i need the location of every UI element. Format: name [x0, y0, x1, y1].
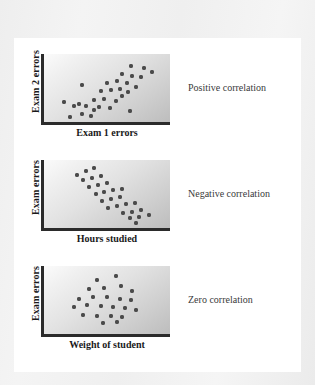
- plot-area-negative: [44, 160, 170, 228]
- y-axis-label: Exam errors: [30, 253, 41, 335]
- correlation-figure: Exam 2 errors Exam 1 errors Positive cor…: [0, 0, 315, 385]
- scatter-point: [119, 284, 123, 288]
- scatter-point: [105, 181, 109, 185]
- scatter-point: [109, 197, 113, 201]
- scatter-point: [72, 305, 76, 309]
- scatter-point: [84, 104, 88, 108]
- panel-caption-zero: Zero correlation: [188, 294, 253, 305]
- scatter-point: [134, 85, 138, 89]
- scatter-point: [106, 206, 110, 210]
- scatter-point: [139, 75, 143, 79]
- y-axis-line: [41, 160, 44, 231]
- scatter-point: [114, 99, 118, 103]
- scatter-point: [120, 187, 124, 191]
- scatter-point: [115, 79, 119, 83]
- scatter-point: [100, 199, 104, 203]
- scatter-point: [105, 81, 109, 85]
- scatter-point: [128, 216, 132, 220]
- scatter-point: [134, 221, 138, 225]
- scatter-point: [130, 289, 134, 293]
- scatter-point: [102, 190, 106, 194]
- scatter-point: [129, 64, 133, 68]
- scatter-panel-zero: Exam errors Weight of student Zero corre…: [14, 254, 301, 358]
- scatter-point: [85, 303, 89, 307]
- scatter-point: [95, 278, 99, 282]
- scatter-point: [91, 295, 95, 299]
- x-axis-line: [41, 122, 170, 125]
- scatter-point: [81, 313, 85, 317]
- x-axis-line: [41, 334, 170, 337]
- y-axis-label: Exam errors: [30, 147, 41, 229]
- scatter-point: [109, 314, 113, 318]
- scatter-point: [102, 97, 106, 101]
- plot-box: [44, 266, 170, 334]
- scatter-point: [121, 211, 125, 215]
- scatter-point: [120, 315, 124, 319]
- scatter-point: [118, 297, 122, 301]
- panel-caption-negative: Negative correlation: [188, 188, 270, 199]
- scatter-point: [134, 308, 138, 312]
- scatter-point: [133, 201, 137, 205]
- scatter-panel-positive: Exam 2 errors Exam 1 errors Positive cor…: [14, 42, 301, 146]
- scatter-point: [109, 88, 113, 92]
- scatter-point: [115, 204, 119, 208]
- scatter-point: [99, 174, 103, 178]
- plot-box: [44, 54, 170, 122]
- scatter-point: [102, 286, 106, 290]
- scatter-point: [114, 274, 118, 278]
- scatter-point: [99, 89, 103, 93]
- scatter-point: [126, 90, 130, 94]
- scatter-point: [81, 178, 85, 182]
- scatter-point: [139, 208, 143, 212]
- scatter-point: [95, 314, 99, 318]
- scatter-point: [105, 295, 109, 299]
- scatter-point: [77, 102, 81, 106]
- scatter-point: [111, 188, 115, 192]
- scatter-point: [130, 210, 134, 214]
- x-axis-label: Hours studied: [41, 233, 173, 244]
- scatter-point: [62, 100, 66, 104]
- scatter-point: [68, 115, 72, 119]
- scatter-point: [125, 81, 129, 85]
- figure-card: Exam 2 errors Exam 1 errors Positive cor…: [14, 38, 301, 372]
- scatter-point: [118, 87, 122, 91]
- scatter-point: [87, 185, 91, 189]
- scatter-point: [80, 83, 84, 87]
- scatter-point: [123, 306, 127, 310]
- scatter-point: [94, 192, 98, 196]
- scatter-point: [118, 195, 122, 199]
- scatter-point: [96, 183, 100, 187]
- scatter-point: [128, 109, 132, 113]
- panel-caption-positive: Positive correlation: [188, 82, 266, 93]
- scatter-point: [75, 173, 79, 177]
- scatter-point: [77, 297, 81, 301]
- scatter-point: [124, 202, 128, 206]
- plot-area-zero: [44, 266, 170, 334]
- x-axis-label: Exam 1 errors: [41, 127, 173, 138]
- scatter-point: [72, 104, 76, 108]
- scatter-point: [92, 166, 96, 170]
- scatter-point: [129, 298, 133, 302]
- scatter-point: [120, 72, 124, 76]
- x-axis-label: Weight of student: [41, 339, 173, 350]
- scatter-point: [147, 213, 151, 217]
- scatter-point: [111, 305, 115, 309]
- scatter-point: [120, 94, 124, 98]
- scatter-point: [142, 66, 146, 70]
- scatter-point: [89, 114, 93, 118]
- scatter-point: [115, 320, 119, 324]
- y-axis-line: [41, 54, 44, 125]
- scatter-point: [137, 215, 141, 219]
- y-axis-label: Exam 2 errors: [30, 41, 41, 123]
- plot-area-positive: [44, 54, 170, 122]
- scatter-point: [150, 70, 154, 74]
- scatter-point: [80, 112, 84, 116]
- scatter-point: [84, 169, 88, 173]
- plot-box: [44, 160, 170, 228]
- scatter-point: [87, 287, 91, 291]
- scatter-point: [108, 106, 112, 110]
- scatter-point: [130, 74, 134, 78]
- scatter-point: [101, 321, 105, 325]
- scatter-panel-negative: Exam errors Hours studied Negative corre…: [14, 148, 301, 252]
- scatter-point: [92, 108, 96, 112]
